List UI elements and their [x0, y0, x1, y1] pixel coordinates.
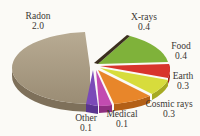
label-cosmic-rays: Cosmic rays0.3	[138, 99, 200, 119]
label-xrays: X-rays0.4	[124, 12, 164, 32]
label-food: Food0.4	[163, 41, 199, 61]
label-radon: Radon2.0	[20, 11, 56, 31]
label-earth: Earth0.3	[166, 71, 200, 91]
label-other: Other0.1	[70, 113, 102, 133]
label-medical: Medical0.1	[102, 109, 142, 129]
slice-xrays	[98, 36, 168, 64]
